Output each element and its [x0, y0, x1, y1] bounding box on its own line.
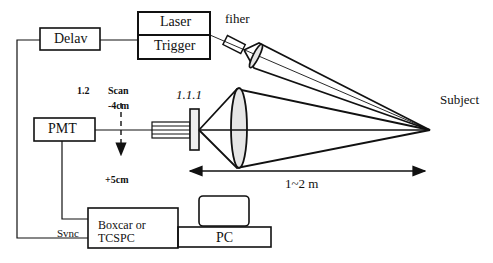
section-number: 1.2	[77, 86, 90, 96]
collection-lens	[231, 88, 247, 168]
detector-plate	[190, 109, 199, 150]
pmt-label: PMT	[48, 122, 77, 136]
scan-label: Scan	[108, 86, 129, 96]
scan-end-label: +5cm	[105, 175, 128, 185]
fiber-label: fiher	[225, 12, 250, 25]
subject-label: Subject	[440, 93, 479, 106]
fiber-connector	[223, 36, 245, 54]
distance-label: 1~2 m	[285, 177, 318, 190]
delay-label: Delav	[54, 32, 87, 46]
pc-label: PC	[216, 231, 233, 245]
sync-label: Svnc	[57, 228, 79, 239]
boxcar-label-line2: TCSPC	[98, 232, 135, 244]
scan-start-label: -4cm	[108, 101, 129, 111]
figure-label: 1.1.1	[176, 88, 202, 101]
laser-label: Laser	[160, 15, 191, 29]
trigger-label: Trigger	[154, 39, 196, 53]
pc-monitor	[199, 196, 249, 226]
boxcar-label-line1: Boxcar or	[98, 219, 146, 231]
sync-line	[17, 40, 88, 238]
